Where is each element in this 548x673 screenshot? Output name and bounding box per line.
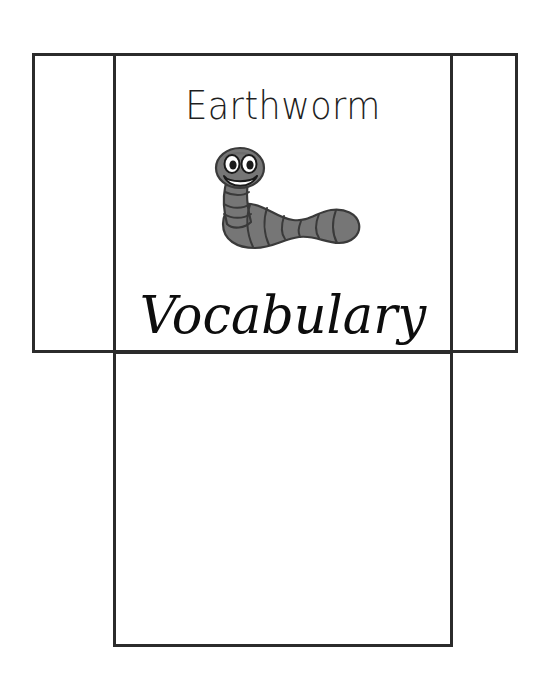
- earthworm-svg: .wbody { fill:#767676; stroke:#3a3a3a; s…: [193, 144, 373, 269]
- left-flap-panel: [32, 53, 116, 353]
- page-title-vocabulary: Vocabulary: [123, 286, 444, 344]
- worm-right-pupil: [246, 160, 253, 169]
- cover-panel-content: Earthworm .wbody { fill:#767676; stroke:…: [116, 56, 450, 350]
- earthworm-icon: .wbody { fill:#767676; stroke:#3a3a3a; s…: [193, 144, 373, 269]
- bottom-blank-panel: [113, 351, 453, 647]
- right-flap-panel: [450, 53, 518, 353]
- worm-left-pupil: [229, 160, 236, 169]
- worksheet-canvas: Earthworm .wbody { fill:#767676; stroke:…: [0, 0, 548, 673]
- page-title-earthworm: Earthworm: [129, 85, 436, 125]
- cover-panel: Earthworm .wbody { fill:#767676; stroke:…: [113, 53, 453, 353]
